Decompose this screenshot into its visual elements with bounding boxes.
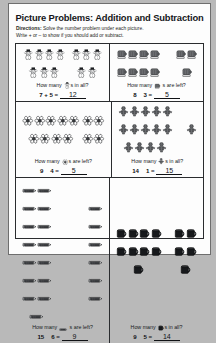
answer-blank[interactable]: 14 <box>154 333 180 341</box>
pencil-icon <box>37 180 52 198</box>
problem-picture <box>18 46 107 82</box>
picture-group <box>81 113 106 149</box>
picture-group <box>173 225 198 279</box>
snowman-icon <box>81 46 92 64</box>
pencil-icon <box>22 288 37 306</box>
equals-sign: = <box>55 333 62 340</box>
snowman-icon <box>92 46 103 64</box>
mitten-icon <box>127 64 138 82</box>
picture-group <box>21 180 52 324</box>
question-prefix: How many <box>37 82 64 88</box>
picture-group <box>115 46 161 82</box>
problem-grid: How many s in all?7+5 = 12How many s are… <box>15 43 204 239</box>
problem-equation: 156 = 9 <box>18 333 107 342</box>
flower-icon <box>57 113 69 131</box>
directions: Directions: Solve the number problem und… <box>15 26 204 43</box>
flower-icon <box>93 131 105 149</box>
gingerbread-icon <box>186 122 197 140</box>
pencil-icon <box>37 252 52 270</box>
pencil-icon <box>37 198 52 216</box>
question-suffix: s in all? <box>164 324 182 330</box>
problem-row: How many s are left?156 = 9How many s in… <box>16 178 203 343</box>
question-suffix: s in all? <box>165 158 183 164</box>
mug-icon <box>116 225 128 243</box>
flower-icon <box>34 113 46 131</box>
mug-icon <box>133 261 145 279</box>
problem-picture <box>114 104 202 158</box>
flower-icon <box>39 131 51 149</box>
snowman-icon <box>49 64 60 82</box>
mitten-icon <box>154 83 160 90</box>
answer-blank[interactable]: 9 <box>62 333 88 341</box>
flower-icon <box>28 131 40 149</box>
equals-sign: = <box>147 333 154 340</box>
picture-group <box>21 46 67 82</box>
page-title: Picture Problems: Addition and Subtracti… <box>15 8 204 26</box>
flower-icon <box>51 131 63 149</box>
answer-blank[interactable]: 5 <box>61 167 87 175</box>
pencil-icon <box>37 216 52 234</box>
picture-group <box>69 46 104 82</box>
gingerbread-icon <box>151 122 162 140</box>
problem-cell: How many s in all?141 = 15 <box>112 102 204 177</box>
picture-group <box>115 225 163 279</box>
equation-left-operand: 9 <box>133 333 136 340</box>
equation-operator-blank[interactable]: + <box>43 91 50 98</box>
question-suffix: s are left? <box>161 82 186 88</box>
snowman-icon <box>23 46 34 64</box>
problem-question: How many s are left? <box>18 158 109 167</box>
snowman-icon <box>34 46 45 64</box>
gingerbread-icon <box>118 122 129 140</box>
pencil-icon <box>22 252 37 270</box>
answer-blank[interactable]: 5 <box>154 91 180 99</box>
pencil-icon <box>22 180 37 198</box>
equals-sign: = <box>147 91 154 98</box>
problem-equation: 7+5 = 12 <box>18 91 107 100</box>
pencil-icon <box>37 234 52 252</box>
answer-blank[interactable]: 15 <box>156 167 182 175</box>
gingerbread-icon <box>140 122 151 140</box>
problem-equation: 83 = 5 <box>112 91 201 100</box>
flower-icon <box>82 113 94 131</box>
problem-question: How many s in all? <box>112 324 201 333</box>
problem-equation: 141 = 15 <box>114 167 202 176</box>
mitten-icon <box>149 64 160 82</box>
flower-icon <box>82 131 94 149</box>
problem-picture <box>112 46 201 82</box>
mitten-icon <box>175 46 186 64</box>
equation-left-operand: 8 <box>133 91 136 98</box>
picture-group <box>185 122 198 140</box>
pencil-icon <box>22 270 37 288</box>
mitten-icon <box>181 64 192 82</box>
worksheet-page: Picture Problems: Addition and Subtracti… <box>8 3 211 255</box>
pencil-icon <box>88 270 103 288</box>
pencil-icon <box>37 288 52 306</box>
gingerbread-icon <box>151 104 162 122</box>
mug-icon <box>151 225 163 243</box>
flower-icon <box>68 113 80 131</box>
problem-equation: 94 = 5 <box>18 167 109 176</box>
equals-sign: = <box>54 167 61 174</box>
mug-icon <box>116 243 128 261</box>
mitten-icon <box>138 64 149 82</box>
pencil-icon <box>88 288 103 306</box>
snowman-icon <box>55 46 66 64</box>
gingerbread-icon <box>134 140 145 158</box>
snowman-icon <box>76 64 87 82</box>
question-suffix: s are left? <box>68 324 93 330</box>
problem-cell: How many s in all?95 = 14 <box>110 178 203 343</box>
question-prefix: How many <box>32 324 59 330</box>
answer-blank[interactable]: 12 <box>60 91 86 99</box>
gingerbread-icon <box>162 104 173 122</box>
question-suffix: s in all? <box>70 82 88 88</box>
problem-question: How many s in all? <box>18 82 107 91</box>
mug-icon <box>158 325 164 332</box>
snowman-icon <box>71 46 82 64</box>
pencil-icon <box>59 326 67 332</box>
mug-icon <box>139 243 151 261</box>
problem-cell: How many s are left?94 = 5 <box>16 102 112 177</box>
pencil-icon <box>29 306 44 324</box>
gingerbread-icon <box>129 122 140 140</box>
question-prefix: How many <box>35 158 62 164</box>
equation-left-operand: 15 <box>37 333 44 340</box>
